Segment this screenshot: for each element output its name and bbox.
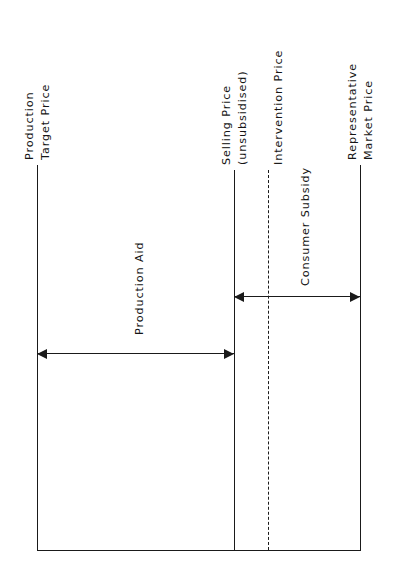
arrow-head-left-icon xyxy=(37,349,47,359)
arrow-shaft xyxy=(234,296,360,297)
label-line-1: Representative xyxy=(345,63,361,160)
price-line-intervention-price xyxy=(268,170,269,550)
price-line-representative-market-price xyxy=(360,165,361,550)
span-arrow-production-aid xyxy=(37,348,234,359)
label-line-1: Production xyxy=(22,84,38,160)
span-label-production-aid: Production Aid xyxy=(133,241,147,335)
span-label-consumer-subsidy: Consumer Subsidy xyxy=(299,167,313,286)
span-arrow-consumer-subsidy xyxy=(234,291,360,302)
arrow-head-left-icon xyxy=(234,292,244,302)
label-intervention-price: Intervention Price xyxy=(272,50,286,165)
label-production-target-price: Production Target Price xyxy=(22,84,54,160)
price-band-diagram: Production Target Price Selling Price (u… xyxy=(0,0,399,580)
label-line-2: Target Price xyxy=(38,84,54,160)
label-line-2: (unsubsidised) xyxy=(235,71,251,166)
arrow-shaft xyxy=(37,353,234,354)
label-line-1: Selling Price xyxy=(219,71,235,166)
arrow-head-right-icon xyxy=(224,349,234,359)
label-line-1: Intervention Price xyxy=(272,50,286,165)
baseline xyxy=(37,550,361,551)
span-label-text: Production Aid xyxy=(133,241,147,335)
arrow-head-right-icon xyxy=(350,292,360,302)
label-selling-price-unsubsidised: Selling Price (unsubsidised) xyxy=(219,71,251,166)
price-line-selling-price-unsubsidised xyxy=(234,170,235,550)
label-representative-market-price: Representative Market Price xyxy=(345,63,377,160)
span-label-text: Consumer Subsidy xyxy=(299,167,313,286)
label-line-2: Market Price xyxy=(361,63,377,160)
